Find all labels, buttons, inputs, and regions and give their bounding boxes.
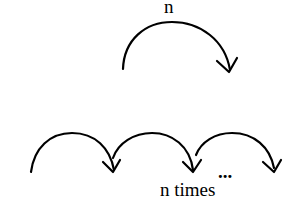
bottom-arc-1 bbox=[31, 133, 114, 172]
top-arc-arrow bbox=[123, 22, 230, 70]
bottom-label: n times bbox=[160, 180, 215, 199]
bottom-arc-2 bbox=[113, 133, 193, 170]
ellipsis-label: ... bbox=[218, 162, 232, 181]
top-label: n bbox=[164, 0, 174, 16]
diagram-canvas bbox=[0, 0, 300, 211]
